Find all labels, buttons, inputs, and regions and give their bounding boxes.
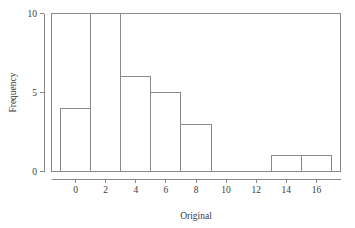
histogram-bar [301,156,331,172]
histogram-plot: 05100246810121416OriginalFrequency [0,0,355,228]
x-axis-tick-label: 14 [282,185,292,195]
x-axis-tick-label: 12 [251,185,261,195]
y-axis-tick-label: 0 [32,167,37,177]
histogram-bar [91,14,121,172]
x-axis-tick-label: 2 [103,185,108,195]
x-axis-tick-label: 4 [133,185,138,195]
x-axis-title: Original [180,211,212,221]
x-axis-tick-label: 0 [73,185,78,195]
x-axis-tick-label: 16 [312,185,322,195]
x-axis-tick-label: 10 [221,185,231,195]
y-axis-title: Frequency [8,72,18,112]
histogram-bar [181,124,211,171]
histogram-bar [271,156,301,172]
histogram-bar [151,93,181,172]
y-axis-tick-label: 10 [28,9,38,19]
histogram-bar [121,77,151,172]
x-axis-tick-label: 6 [164,185,169,195]
histogram-figure: 05100246810121416OriginalFrequency [0,0,355,228]
y-axis-tick-label: 5 [32,88,37,98]
histogram-bar [61,108,91,171]
x-axis-tick-label: 8 [194,185,199,195]
